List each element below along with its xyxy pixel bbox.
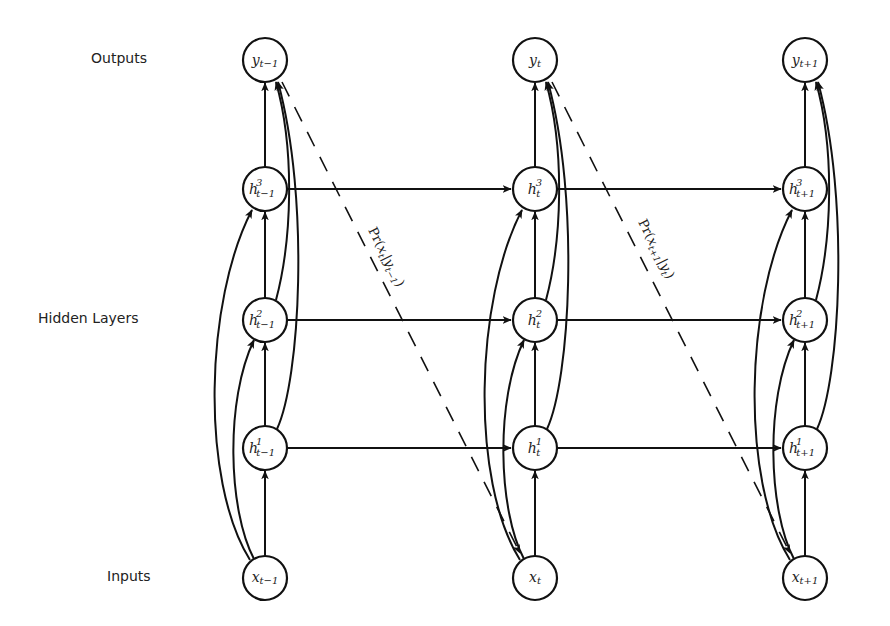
edge-x-to-h3-skip — [755, 210, 792, 560]
node-h2-t-minus-1: h2t−1 — [243, 298, 287, 342]
svg-text:h3t: h3t — [528, 177, 542, 199]
node-y-t-plus-1: yt+1 — [783, 38, 827, 82]
prob-label-2: Pr(xt+1|yt) — [634, 217, 678, 282]
dashed-edge-y-t-minus-1-to-x-t — [282, 82, 520, 553]
prob-label-2-text: Pr(xt+1|yt) — [634, 217, 678, 282]
node-h3-t-minus-1: h3t−1 — [243, 167, 287, 211]
edge-x-to-h3-skip — [485, 210, 522, 560]
node-x-t: xt — [513, 556, 557, 600]
node-y-t: yt — [513, 38, 557, 82]
node-x-t-minus-1: xt−1 — [243, 556, 287, 600]
node-h2-t-plus-1: h2t+1 — [783, 298, 827, 342]
deep-rnn-diagram: Outputs Hidden Layers Inputs — [0, 0, 890, 626]
node-h1-t: h1t — [513, 426, 557, 470]
edge-h1-to-y-skip — [817, 82, 838, 429]
node-x-t-plus-1: xt+1 — [783, 556, 827, 600]
node-h3-t: h3t — [513, 167, 557, 211]
dashed-edge-y-t-to-x-t-plus-1 — [552, 82, 790, 553]
edge-x-to-h3-skip — [215, 210, 252, 560]
node-h2-t: h2t — [513, 298, 557, 342]
edge-h1-to-y-skip — [277, 82, 298, 429]
svg-text:h2t: h2t — [528, 308, 542, 330]
node-h1-t-minus-1: h1t−1 — [243, 426, 287, 470]
graph-canvas: Pr(xt|yt−1) Pr(xt+1|yt) yt−1 h3t−1 h2t−1… — [0, 0, 890, 626]
node-h3-t-plus-1: h3t+1 — [783, 167, 827, 211]
node-y-t-minus-1: yt−1 — [243, 38, 287, 82]
edge-h1-to-y-skip — [547, 82, 568, 429]
svg-text:h1t: h1t — [528, 436, 542, 458]
node-h1-t-plus-1: h1t+1 — [783, 426, 827, 470]
